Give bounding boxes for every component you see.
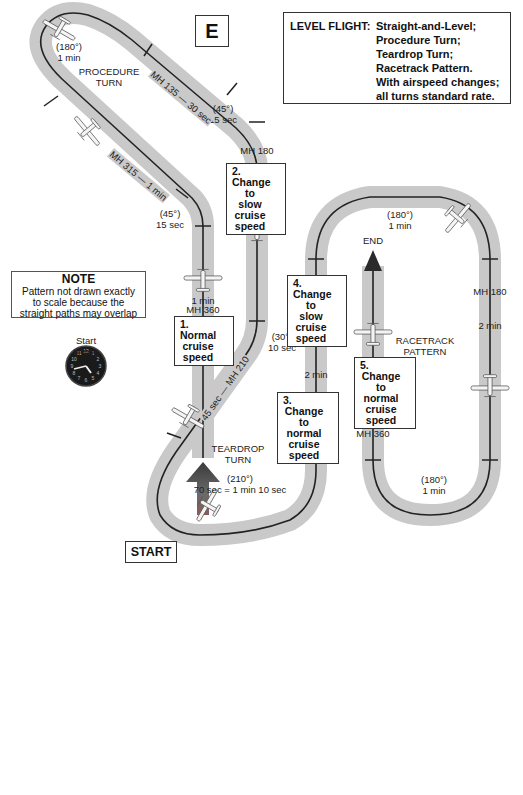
step-line: speed <box>360 415 402 426</box>
leg-label-race-mh180: MH 180 <box>468 287 512 298</box>
step-line: speed <box>232 221 268 232</box>
turn-label-racetrack-bottom-180: (180°) 1 min <box>417 475 451 496</box>
turn-time: 1 min <box>383 221 417 232</box>
step-line: to normal <box>283 417 325 439</box>
title-box: LEVEL FLIGHT: Straight-and-Level; Proced… <box>283 12 511 104</box>
svg-text:8: 8 <box>73 370 76 376</box>
turn-time: 70 sec = 1 min 10 sec <box>190 485 290 496</box>
svg-text:5: 5 <box>92 375 95 381</box>
leg-label-leg1-heading: MH 360 <box>181 305 225 316</box>
step-5-box: 5.Changeto normalcruisespeed <box>354 357 416 429</box>
flight-pattern-diagram: 1212 345 678 91011 <box>0 0 523 795</box>
start-timing-line: Start <box>70 336 102 347</box>
note-box: NOTE Pattern not drawn exactly to scale … <box>11 271 146 318</box>
turn-time: 15 sec <box>153 220 187 231</box>
start-label: START <box>125 541 177 563</box>
step-text: Normalcruisespeed <box>180 330 216 363</box>
step-line: speed <box>293 333 329 344</box>
pattern-label-line: TEARDROP <box>210 444 266 455</box>
note-line: to scale because the <box>12 297 145 308</box>
title-line: Straight-and-Level; <box>376 19 499 33</box>
title-line: Procedure Turn; <box>376 33 499 47</box>
step-line: speed <box>283 450 325 461</box>
turn-angle: (180°) <box>383 210 417 221</box>
step-line: to normal <box>360 382 402 404</box>
leg-label-race-right-time: 2 min <box>473 321 507 332</box>
svg-text:7: 7 <box>78 375 81 381</box>
procedure-turn-label: PROCEDURE TURN <box>78 67 140 88</box>
turn-time: 1 min <box>417 486 451 497</box>
step-line: to slow <box>293 300 329 322</box>
start-timing-label: Start timing <box>70 336 102 357</box>
note-title: NOTE <box>12 273 145 286</box>
airplane-icon <box>184 269 222 291</box>
track-tick-marks <box>44 44 498 460</box>
title-key: LEVEL FLIGHT: <box>290 19 370 33</box>
title-lines: Straight-and-Level; Procedure Turn; Tear… <box>376 19 499 103</box>
turn-angle: (45°) <box>153 209 187 220</box>
racetrack-pattern-label: RACETRACK PATTERN <box>393 336 457 357</box>
step-text: Changeto slowcruisespeed <box>293 289 329 344</box>
note-line: straight paths may overlap <box>12 308 145 319</box>
note-line: Pattern not drawn exactly <box>12 286 145 297</box>
svg-text:9: 9 <box>71 363 74 369</box>
turn-angle: (210°) <box>190 474 290 485</box>
start-timing-line: timing <box>70 347 102 358</box>
step-2-box: 2.Changeto slowcruisespeed <box>226 163 286 235</box>
svg-text:4: 4 <box>97 370 100 376</box>
airplane-icon <box>471 375 509 397</box>
end-label: END <box>358 236 388 247</box>
airplane-icon <box>354 323 392 345</box>
step-text: Changeto normalcruisespeed <box>283 406 325 461</box>
pattern-label-line: PATTERN <box>393 347 457 358</box>
step-line: speed <box>180 352 216 363</box>
title-line: Teardrop Turn; <box>376 47 499 61</box>
turn-angle: (180°) <box>417 475 451 486</box>
turn-label-teardrop-210: (210°) 70 sec = 1 min 10 sec <box>190 474 290 495</box>
leg-label-leg5-heading: MH 360 <box>351 429 395 440</box>
turn-time: 1 min <box>52 53 86 64</box>
step-4-box: 4.Changeto slowcruisespeed <box>287 275 347 347</box>
figure-label: E <box>195 15 229 47</box>
turn-label-racetrack-top-180: (180°) 1 min <box>383 210 417 231</box>
pattern-label-line: TURN <box>78 78 140 89</box>
svg-text:6: 6 <box>85 377 88 383</box>
step-3-box: 3.Changeto normalcruisespeed <box>277 392 339 464</box>
turn-label-procedure-180: (180°) 1 min <box>52 42 86 63</box>
turn-angle: (180°) <box>52 42 86 53</box>
step-1-box: 1.Normalcruisespeed <box>174 316 234 366</box>
leg-label-mh180: MH 180 <box>235 146 279 157</box>
turn-angle: (45°) <box>206 104 240 115</box>
end-arrow-icon <box>364 250 382 271</box>
svg-text:3: 3 <box>99 363 102 369</box>
step-text: Changeto normalcruisespeed <box>360 371 402 426</box>
title-line: Racetrack Pattern. <box>376 61 499 75</box>
title-line: all turns standard rate. <box>376 89 499 103</box>
turn-label-lower-45: (45°) 15 sec <box>153 209 187 230</box>
step-line: to slow <box>232 188 268 210</box>
title-line: With airspeed changes; <box>376 75 499 89</box>
pattern-label-line: PROCEDURE <box>78 67 140 78</box>
pattern-label-line: RACETRACK <box>393 336 457 347</box>
teardrop-turn-label: TEARDROP TURN <box>210 444 266 465</box>
leg-label-leg3-time: 2 min <box>299 370 333 381</box>
pattern-label-line: TURN <box>210 455 266 466</box>
step-text: Changeto slowcruisespeed <box>232 177 268 232</box>
